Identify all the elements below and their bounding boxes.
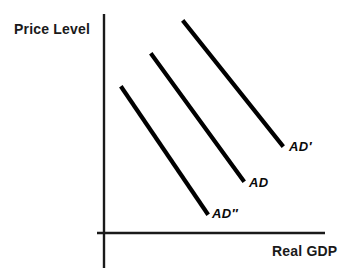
curve-ad (152, 55, 243, 180)
x-axis-label: Real GDP (272, 243, 337, 259)
aggregate-demand-diagram: Price Level Real GDP AD′ AD AD″ (0, 0, 363, 274)
plot-area (0, 0, 363, 274)
curve-label-ad-prime: AD′ (289, 139, 312, 154)
y-axis-label: Price Level (14, 21, 90, 37)
curve-ad-double-prime (122, 88, 207, 213)
curve-label-ad-double-prime: AD″ (212, 206, 238, 221)
curve-label-ad: AD (249, 175, 268, 190)
curve-ad-prime (184, 22, 282, 145)
